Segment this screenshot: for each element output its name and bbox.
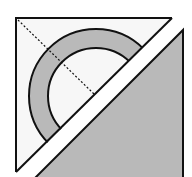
split-square-protractor-icon xyxy=(0,0,192,177)
